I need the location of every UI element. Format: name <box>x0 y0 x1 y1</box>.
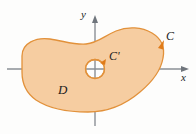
region-d-shape <box>22 28 164 112</box>
x-axis-label: x <box>181 72 186 83</box>
figure-container: y x C C' D <box>0 0 196 134</box>
figure-svg <box>0 0 196 134</box>
outer-curve-label: C <box>166 30 174 42</box>
region-label: D <box>58 83 67 96</box>
y-axis-arrowhead <box>92 15 98 23</box>
y-axis-label: y <box>81 9 86 20</box>
inner-curve-label: C' <box>109 50 120 62</box>
